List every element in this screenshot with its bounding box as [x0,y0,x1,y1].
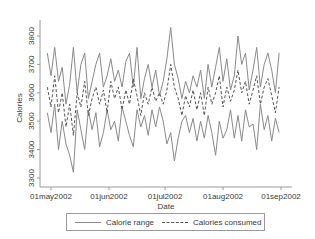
legend-label: Calorie range [106,218,154,227]
y-tick-label: 3500 [27,112,36,130]
y-tick-label: 3300 [27,169,36,187]
x-tick-label: 01aug2002 [203,192,244,201]
x-tick-label: 01jun2002 [90,192,128,201]
line-chart: 330034003500360037003800 01may200201jun2… [0,0,315,239]
legend: Calorie range Calories consumed [66,213,265,231]
x-tick-label: 01jul2002 [148,192,183,201]
x-axis: 01may200201jun200201jul200201aug200201se… [30,187,301,201]
plot-area [47,28,279,173]
y-tick-label: 3400 [27,140,36,158]
y-axis-title: Calories [15,93,24,122]
y-axis: 330034003500360037003800 [27,20,40,187]
legend-item-calories-consumed: Calories consumed [154,218,261,227]
solid-line-swatch-icon [75,222,101,223]
x-tick-label: 01may2002 [30,192,72,201]
y-tick-label: 3700 [27,55,36,73]
y-tick-label: 3800 [27,27,36,45]
x-axis-title: Date [158,202,175,211]
calories-consumed-line [47,64,279,135]
y-tick-label: 3600 [27,83,36,101]
calorie-range-line [47,28,279,105]
dashed-line-swatch-icon [162,222,188,223]
calorie-range-line [47,104,279,172]
x-tick-label: 01sep2002 [261,192,301,201]
legend-item-calorie-range: Calorie range [67,218,154,227]
legend-label: Calories consumed [193,218,261,227]
